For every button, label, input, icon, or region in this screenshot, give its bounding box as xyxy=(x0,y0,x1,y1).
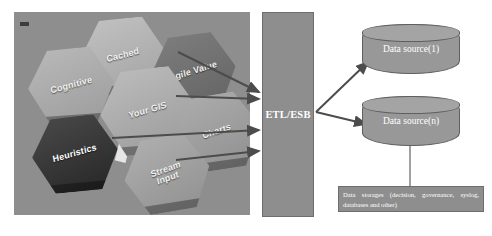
data-storages-caption-text: Data storages (decision, governance, sys… xyxy=(343,190,479,209)
hex-tile-label: Cached xyxy=(106,47,140,65)
diagram-canvas: Cached Agile Value Cognitive Your GIS Ch… xyxy=(0,0,492,236)
etl-esb-box: ETL/ESB xyxy=(262,12,314,217)
hex-tile-label: Cognitive xyxy=(50,76,93,96)
etl-esb-label: ETL/ESB xyxy=(265,109,310,120)
photo-corner-mark xyxy=(20,22,29,26)
data-sources-panel: Cached Agile Value Cognitive Your GIS Ch… xyxy=(14,12,250,215)
arrow-etl-to-source-1 xyxy=(316,62,368,112)
data-source-1-cylinder: Data source(1) xyxy=(362,24,460,74)
data-source-n-cylinder: Data source(n) xyxy=(362,96,460,146)
data-source-1-label: Data source(1) xyxy=(383,44,439,54)
data-storages-caption-box: Data storages (decision, governance, sys… xyxy=(338,186,484,212)
hex-tile-label: Heuristics xyxy=(52,143,97,165)
data-source-n-label: Data source(n) xyxy=(383,116,439,126)
hex-tile-label: Your GIS xyxy=(128,101,168,121)
hex-tile-label: Charts xyxy=(202,123,232,142)
hex-tile-label: Stream Input xyxy=(150,159,184,188)
arrow-etl-to-source-n xyxy=(316,112,366,124)
